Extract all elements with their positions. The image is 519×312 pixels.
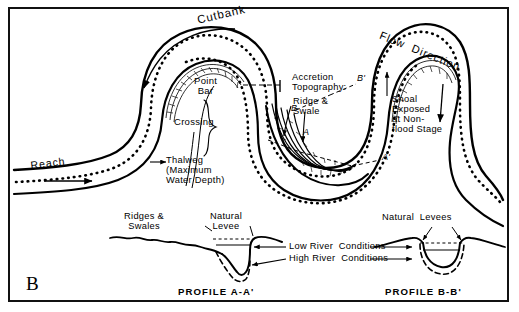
profile-a-title: PROFILE A-A'	[178, 286, 254, 297]
figure-letter: B	[26, 273, 39, 295]
label-crossing: Crossing	[174, 117, 214, 127]
profile-a-artwork	[110, 226, 282, 281]
profile-b-levee-leader-right	[452, 227, 461, 240]
label-ridges-swales: Ridges & Swales	[124, 211, 164, 231]
label-section-b-end: B'	[357, 74, 365, 84]
profile-a-levee-leader	[250, 226, 253, 236]
label-accretion-topography: Accretion Topography:	[292, 72, 346, 92]
label-natural-levee: Natural Levee	[210, 211, 242, 231]
profile-legend-arrows-left	[252, 247, 286, 265]
profile-b-title: PROFILE B-B'	[385, 286, 462, 297]
label-section-b-start: B	[291, 104, 297, 114]
label-low-river-conditions: Low River Conditions	[289, 241, 386, 251]
inner-bank-line	[14, 56, 503, 226]
label-ridge-and-swale: Ridge & Swale	[293, 96, 328, 116]
figure-panel-b: Cutbank Point Bar Crossing Thalweg (Maxi…	[0, 0, 519, 312]
meander-diagram-artwork	[0, 0, 519, 312]
label-point-bar: Point Bar	[194, 76, 217, 97]
accretion-outer-arc	[266, 106, 368, 185]
label-high-river-conditions: High River Conditions	[289, 253, 388, 263]
profile-b-artwork	[375, 227, 505, 274]
profile-b-high-river-bed	[420, 244, 464, 274]
profile-b-levee-leader-left	[423, 227, 432, 240]
label-natural-levees: Natural Levees	[382, 212, 452, 222]
label-shoal: Shoal Exposed at Non- flood Stage	[392, 94, 442, 134]
label-section-a-start: A	[303, 128, 309, 138]
label-section-a-end: A'	[382, 153, 390, 163]
crossing-brace	[204, 100, 216, 156]
profile-b-low-river-bed	[423, 243, 460, 267]
profile-a-ridges-surface	[110, 237, 222, 254]
profile-a-low-river-bed	[222, 237, 282, 275]
high-river-arrow-left	[252, 259, 286, 265]
profile-b-right-bank	[460, 238, 505, 247]
label-thalweg: Thalweg (Maximum Water Depth)	[166, 155, 225, 185]
